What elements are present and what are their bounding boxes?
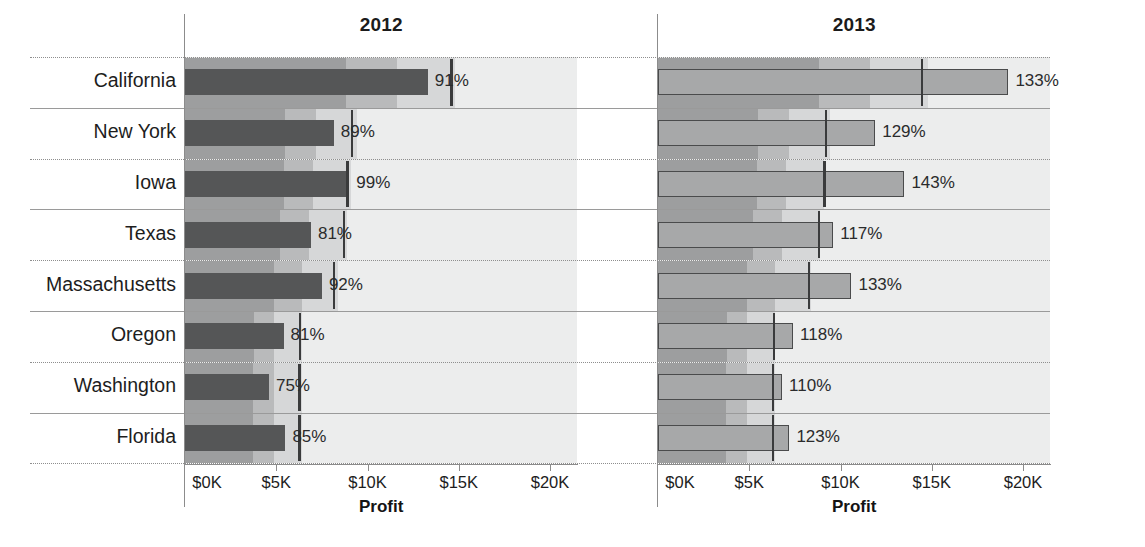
measure-bar [185,425,285,451]
data-label: 118% [800,325,842,345]
data-label: 75% [276,376,310,396]
measure-bar [185,69,428,95]
row-label-washington: Washington [0,374,176,397]
measure-bar [185,171,349,197]
row-label-iowa: Iowa [0,171,176,194]
axis-tick [459,465,460,471]
data-label: 99% [356,173,390,193]
axis-title-profit: Profit [658,497,1050,517]
axis-tick-label: $0K [640,473,720,492]
measure-bar [658,69,1008,95]
measure-bar [658,273,851,299]
measure-bar [185,222,311,248]
target-line [773,313,776,360]
axis-tick-label: $5K [236,473,316,492]
row-label-texas: Texas [0,222,176,245]
measure-bar [658,374,782,400]
measure-bar [185,374,269,400]
data-label: 92% [329,275,363,295]
bullet-chart-figure: 20122013California91%133%New York89%129%… [0,0,1145,547]
axis-tick [550,465,551,471]
axis-tick-label: $20K [510,473,590,492]
axis-tick [841,465,842,471]
measure-bar [658,171,904,197]
axis-tick [1023,465,1024,471]
target-line [772,415,775,462]
axis-tick-label: $20K [983,473,1063,492]
data-label: 123% [796,427,839,447]
axis-tick-label: $10K [328,473,408,492]
data-label: 129% [882,122,925,142]
axis-tick [276,465,277,471]
target-line [808,262,811,309]
axis-title-profit: Profit [185,497,577,517]
target-line [346,161,349,208]
axis-tick [368,465,369,471]
axis-tick [932,465,933,471]
axis-tick-label: $5K [709,473,789,492]
measure-bar [658,425,789,451]
data-label: 85% [292,427,326,447]
target-line [772,364,775,411]
row-label-florida: Florida [0,425,176,448]
measure-bar [185,323,284,349]
data-label: 143% [911,173,954,193]
data-label: 81% [291,325,325,345]
row-label-new-york: New York [0,120,176,143]
axis-baseline [657,464,1051,465]
axis-tick-label: $0K [167,473,247,492]
axis-tick [749,465,750,471]
row-label-california: California [0,69,176,92]
target-line [921,59,924,106]
panel-title-2012: 2012 [185,14,577,36]
data-label: 133% [1015,71,1058,91]
measure-bar [658,120,875,146]
measure-bar [185,120,334,146]
data-label: 91% [435,71,469,91]
axis-baseline [184,464,578,465]
data-label: 89% [341,122,375,142]
measure-bar [658,222,833,248]
axis-tick-label: $15K [892,473,972,492]
data-label: 110% [789,376,831,396]
row-label-massachusetts: Massachusetts [0,273,176,296]
axis-tick-label: $15K [419,473,499,492]
axis-tick-label: $10K [801,473,881,492]
data-label: 133% [858,275,901,295]
data-label: 81% [318,224,352,244]
target-line [818,211,821,258]
axis-line-vertical [657,14,658,507]
measure-bar [185,273,322,299]
panel-title-2013: 2013 [658,14,1050,36]
data-label: 117% [840,224,882,244]
target-line [825,110,828,157]
target-line [823,161,826,208]
axis-line-vertical [184,14,185,507]
row-label-oregon: Oregon [0,323,176,346]
